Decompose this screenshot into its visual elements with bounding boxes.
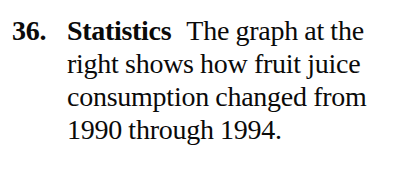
exercise-item: 36. StatisticsThe graph at the right sho… (0, 0, 402, 190)
exercise-body: StatisticsThe graph at the right shows h… (67, 14, 402, 146)
exercise-number: 36. (12, 14, 46, 47)
exercise-topic-label: Statistics (67, 15, 171, 46)
